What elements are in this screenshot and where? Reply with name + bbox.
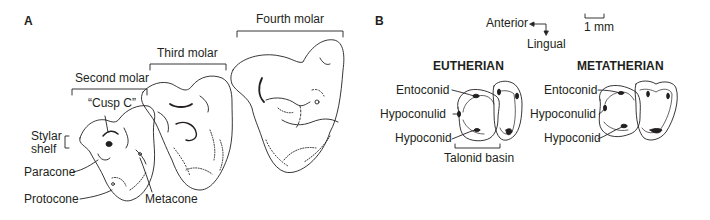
eutherian-title: EUTHERIAN [433, 59, 504, 73]
panel-a-letter: A [24, 14, 33, 28]
second-molar-drawing [80, 106, 155, 201]
protocone-label: Protocone [24, 193, 79, 206]
paracone-label: Paracone [24, 166, 75, 179]
talonid-basin-bracket [455, 144, 500, 148]
cusp-c-label: “Cusp C” [88, 97, 136, 110]
eutherian-tooth-drawing [458, 81, 523, 141]
metatherian-title: METATHERIAN [577, 59, 664, 73]
second-molar-label: Second molar [75, 72, 149, 85]
lingual-arrowhead [544, 31, 548, 35]
scale-bar [585, 14, 604, 18]
metatherian-hypoconid-label: Hypoconid [544, 132, 601, 145]
fourth-molar-bracket [237, 31, 343, 37]
anterior-label: Anterior [486, 17, 528, 30]
eutherian-hypoconid-label: Hypoconid [395, 132, 452, 145]
talonid-basin-label: Talonid basin [444, 152, 514, 165]
second-molar-bracket [72, 89, 147, 95]
panel-b-letter: B [375, 14, 384, 28]
protocone-leader [80, 190, 112, 199]
eutherian-entoconid-leader [452, 90, 474, 96]
stylar-shelf-label-line2: shelf [31, 143, 56, 156]
third-molar-drawing [142, 76, 233, 190]
eutherian-hypoconid-leader [452, 130, 475, 139]
scale-bar-label: 1 mm [584, 21, 614, 34]
eutherian-entoconid-label: Entoconid [396, 84, 449, 97]
third-molar-bracket [150, 64, 226, 70]
paracone-leader [73, 160, 98, 172]
lingual-label: Lingual [527, 38, 566, 51]
anterior-arrowhead [530, 22, 534, 26]
metatherian-hypoconulid-label: Hypoconulid [530, 108, 596, 121]
eutherian-hypoconulid-label: Hypoconulid [380, 108, 446, 121]
fourth-molar-drawing [231, 40, 344, 173]
metatherian-entoconid-label: Entoconid [544, 84, 597, 97]
fourth-molar-label: Fourth molar [256, 13, 324, 26]
metatherian-tooth-drawing [599, 81, 677, 140]
metacone-label: Metacone [145, 193, 198, 206]
stylar-shelf-bracket [65, 136, 69, 148]
cusp-c-leader [105, 116, 108, 132]
third-molar-label: Third molar [157, 47, 218, 60]
